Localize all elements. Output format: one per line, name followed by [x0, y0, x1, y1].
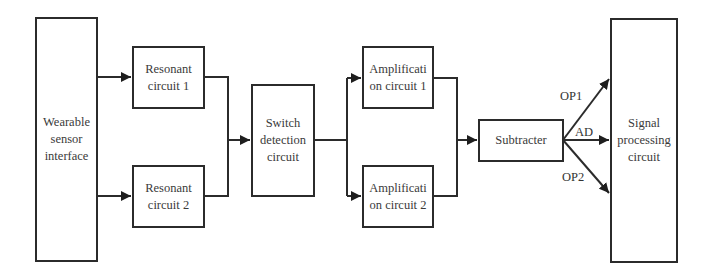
- amp-merge-line: [433, 78, 457, 196]
- edge-label-ad: AD: [575, 125, 593, 139]
- edge-label-op2: OP2: [562, 170, 584, 184]
- resonant-circuit-2-label: Resonant circuit 2: [145, 180, 192, 214]
- amplification-circuit-1-label: Amplificati on circuit 1: [369, 61, 427, 95]
- connector-lines: [0, 0, 708, 271]
- switch-detection-circuit-label: Switch detection circuit: [260, 115, 306, 166]
- wearable-sensor-interface-block: Wearable sensor interface: [35, 17, 98, 262]
- resonant-circuit-1-label: Resonant circuit 1: [145, 61, 192, 95]
- switch-detection-circuit-block: Switch detection circuit: [251, 84, 315, 197]
- resonant-circuit-1-block: Resonant circuit 1: [132, 46, 205, 109]
- arrow-op2: [563, 140, 609, 193]
- wearable-sensor-interface-label: Wearable sensor interface: [43, 114, 90, 165]
- resonant-merge-line: [204, 77, 228, 196]
- signal-processing-circuit-label: Signal processing circuit: [617, 115, 670, 166]
- edge-label-op1: OP1: [560, 89, 582, 103]
- amplification-circuit-1-block: Amplificati on circuit 1: [362, 46, 434, 109]
- subtracter-block: Subtracter: [478, 119, 564, 162]
- block-diagram: Wearable sensor interface Resonant circu…: [0, 0, 708, 271]
- amplification-circuit-2-label: Amplificati on circuit 2: [369, 180, 427, 214]
- resonant-circuit-2-block: Resonant circuit 2: [132, 165, 205, 228]
- subtracter-label: Subtracter: [495, 132, 546, 149]
- signal-processing-circuit-block: Signal processing circuit: [610, 18, 678, 263]
- amplification-circuit-2-block: Amplificati on circuit 2: [362, 165, 434, 228]
